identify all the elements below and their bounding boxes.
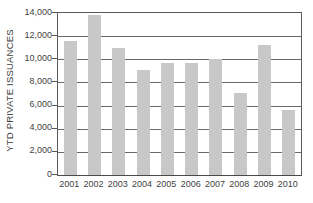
bar-chart: YTD PRIVATE ISSUANCES 02,0004,0006,0008,… (0, 0, 313, 203)
plot-area (57, 12, 302, 176)
bar (209, 59, 222, 175)
bar (185, 63, 198, 175)
bar (137, 70, 150, 175)
y-axis-tick-label: 0 (6, 170, 52, 179)
y-axis-tick-label: 12,000 (6, 31, 52, 40)
y-axis-tick-label: 10,000 (6, 54, 52, 63)
y-axis-tick-label: 14,000 (6, 8, 52, 17)
bar (112, 48, 125, 175)
bar (282, 110, 295, 175)
bar (64, 41, 77, 175)
bar (234, 93, 247, 175)
bar (258, 45, 271, 175)
y-axis-tick-label: 8,000 (6, 77, 52, 86)
y-axis-tick-label: 2,000 (6, 146, 52, 155)
bar (88, 15, 101, 175)
y-axis-title-text: YTD PRIVATE ISSUANCES (4, 29, 15, 152)
y-axis-tick-label: 6,000 (6, 100, 52, 109)
bar (161, 63, 174, 175)
x-axis-tick-label: 2010 (273, 179, 303, 189)
y-axis-tick-label: 4,000 (6, 123, 52, 132)
